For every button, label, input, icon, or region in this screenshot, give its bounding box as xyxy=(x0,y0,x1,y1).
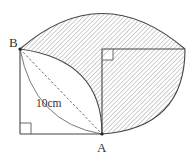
length-label: 10cm xyxy=(36,97,62,109)
right-angle-mark-left xyxy=(20,123,31,134)
point-B-dot xyxy=(18,47,21,50)
point-A-label: A xyxy=(97,140,107,155)
point-A-dot xyxy=(100,132,103,135)
geometry-diagram: B A 10cm xyxy=(0,0,195,156)
point-B-label: B xyxy=(9,35,18,50)
